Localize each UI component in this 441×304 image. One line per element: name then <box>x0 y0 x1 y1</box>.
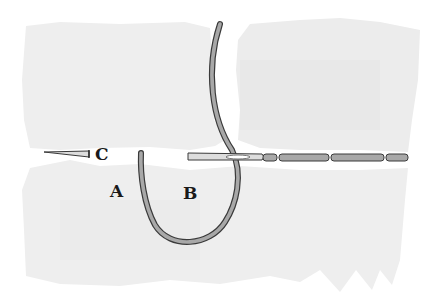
label-b: B <box>183 185 197 202</box>
label-a: A <box>110 183 123 200</box>
diagram-canvas <box>0 0 441 304</box>
needle-c <box>44 150 89 158</box>
stitch-diagram: C A B <box>0 0 441 304</box>
label-c: C <box>95 146 109 163</box>
fabric-shade <box>240 60 380 130</box>
stitch-line <box>263 154 408 161</box>
upper-left-fabric <box>22 22 225 150</box>
fabric-shade-lower <box>60 200 200 260</box>
needle-b <box>188 153 264 160</box>
